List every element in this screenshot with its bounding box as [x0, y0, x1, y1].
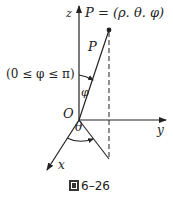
point-equation-label: P = (ρ. θ. φ) [85, 6, 164, 19]
xy-projection [79, 120, 109, 159]
diagram-canvas [0, 0, 173, 199]
z-axis-label: z [66, 8, 72, 19]
figure-char-icon [69, 180, 79, 191]
figure-caption: 6–26 [69, 180, 110, 192]
x-axis-label: x [58, 159, 65, 171]
phi-arc [79, 75, 93, 80]
phi-label: φ [81, 87, 89, 98]
segment-p-label: P [88, 40, 97, 53]
figure-number: 6–26 [81, 179, 110, 193]
theta-label: θ [75, 121, 82, 133]
point-p [107, 28, 112, 33]
y-axis-label: y [157, 124, 164, 136]
theta-arc [67, 138, 93, 141]
origin-label: O [63, 107, 74, 120]
phi-range-label: (0 ≤ φ ≤ π) [6, 68, 75, 80]
